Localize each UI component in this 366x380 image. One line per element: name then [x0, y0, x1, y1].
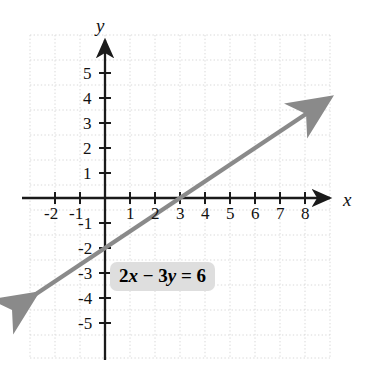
x-tick-label-6: 6 — [251, 205, 260, 222]
y-tick-label--5: -5 — [78, 315, 92, 332]
equation-operator: − — [138, 265, 158, 286]
y-tick-label--1: -1 — [78, 215, 92, 232]
y-tick-label-1: 1 — [83, 165, 92, 182]
x-tick-label--2: -2 — [44, 205, 58, 222]
x-tick-label-4: 4 — [201, 205, 210, 222]
x-tick-label-1: 1 — [126, 205, 135, 222]
equation-equals: = — [176, 265, 196, 286]
coordinate-plane — [0, 0, 366, 380]
graph-figure: -2 -1 1 2 3 4 5 6 7 8 5 4 3 2 1 -1 -2 -3… — [0, 0, 366, 380]
y-tick-label-4: 4 — [83, 90, 92, 107]
y-tick-label--2: -2 — [78, 240, 92, 257]
equation-constant: 6 — [197, 265, 207, 286]
y-tick-label--3: -3 — [78, 265, 92, 282]
equation-var-x: x — [129, 265, 139, 286]
x-tick-label-2: 2 — [151, 205, 160, 222]
x-tick-label-3: 3 — [176, 205, 185, 222]
y-tick-label-3: 3 — [83, 115, 92, 132]
equation-coef-x: 2 — [119, 265, 129, 286]
x-tick-label-7: 7 — [276, 205, 285, 222]
equation-annotation: 2x − 3y = 6 — [110, 262, 215, 291]
equation-coef-y: 3 — [158, 265, 168, 286]
y-axis-label: y — [96, 16, 104, 35]
x-tick-label-5: 5 — [226, 205, 235, 222]
x-tick-label-8: 8 — [301, 205, 310, 222]
x-axis-label: x — [343, 190, 351, 209]
y-tick-label-2: 2 — [83, 140, 92, 157]
y-tick-label--4: -4 — [78, 290, 92, 307]
y-tick-label-5: 5 — [83, 65, 92, 82]
equation-var-y: y — [168, 265, 176, 286]
